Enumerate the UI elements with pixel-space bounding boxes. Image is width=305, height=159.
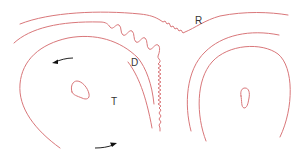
left-closed-center (71, 81, 89, 99)
flow-arrow-lower (95, 143, 117, 149)
flow-arrow-upper-left (52, 58, 73, 64)
contour-map (0, 0, 305, 159)
right-inner-arch (199, 46, 290, 141)
ridge-label: R (195, 16, 202, 26)
left-inner-descending-arc (128, 62, 152, 128)
left-cyclone-outer-loop (20, 36, 154, 148)
second-upper-contour-with-wave (14, 22, 161, 131)
weather-diagram: R D T (0, 0, 305, 159)
outer-upper-contour (20, 12, 288, 33)
right-closed-center (241, 88, 250, 108)
divergence-label: D (131, 58, 138, 68)
trough-label: T (111, 97, 117, 107)
